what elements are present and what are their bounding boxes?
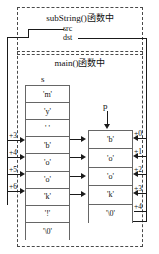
p-pointer-arrowhead [104, 124, 110, 129]
main-frame-title: main()函数中 [17, 56, 143, 69]
array-s-cell: 'o' [26, 154, 69, 171]
copy-arrow-3 [81, 173, 86, 179]
copy-arrow-4 [81, 191, 86, 197]
src-pointer-label: src [63, 24, 72, 33]
array-p: 'b' 'o' 'o' 'k' '\0' [88, 130, 133, 223]
array-p-cell: 'o' [89, 168, 132, 186]
dst-offset-line-1 [138, 156, 147, 157]
src-left-turn-line [7, 37, 29, 38]
offset-dst-plus4: +4 [134, 202, 142, 211]
offset-src-plus4: +4 [9, 148, 17, 157]
p-pointer-stem [107, 111, 108, 125]
array-s-cell: '\0' [26, 223, 69, 240]
dst-offset-line-2 [138, 174, 147, 175]
src-offset-arrow-3 [20, 137, 25, 143]
copy-arrow-2 [81, 154, 86, 160]
array-p-cell: '\0' [89, 205, 132, 223]
array-p-cell: 'b' [89, 131, 132, 149]
dst-vertical-line [146, 38, 147, 222]
substring-frame-title: subString()函数中 [17, 11, 143, 24]
array-s-cell: 'm' [26, 86, 69, 103]
offset-src-plus6: +6 [9, 182, 17, 191]
array-s-label: s [41, 74, 45, 84]
array-p-cell: 'k' [89, 186, 132, 204]
array-s: 'm' 'y' ' ' 'b' 'o' 'o' 'k' '!' '\0' [25, 85, 70, 240]
array-s-cell: 'k' [26, 189, 69, 206]
src-vertical-line [7, 37, 8, 205]
dst-offset-arrow-1 [133, 153, 138, 159]
offset-src-plus3: +3 [9, 131, 17, 140]
dst-offset-line-3 [138, 193, 147, 194]
dst-bottom-turn-line [133, 221, 147, 222]
copy-arrow-1 [81, 136, 86, 142]
array-s-cell: 'o' [26, 172, 69, 189]
dst-offset-arrow-3 [133, 190, 138, 196]
src-offset-arrow-4 [20, 154, 25, 160]
diagram-canvas: subString()函数中 main()函数中 src dst s 'm' '… [0, 0, 159, 254]
array-p-label: p [103, 101, 108, 111]
src-offset-arrow-6 [20, 188, 25, 194]
src-horizontal-line [28, 29, 64, 30]
array-p-cell: 'o' [89, 149, 132, 167]
dst-offset-line-0 [138, 138, 147, 139]
dst-offset-arrow-0 [133, 135, 138, 141]
dst-horizontal-line [78, 38, 146, 39]
dst-pointer-label: dst [63, 33, 72, 42]
array-s-cell: 'b' [26, 137, 69, 154]
array-s-cell: ' ' [26, 120, 69, 137]
src-offset-arrow-5 [20, 171, 25, 177]
offset-src-plus5: +5 [9, 165, 17, 174]
array-s-cell: '!' [26, 206, 69, 223]
dst-offset-arrow-2 [133, 171, 138, 177]
dst-offset-line-4 [134, 211, 147, 212]
array-s-cell: 'y' [26, 103, 69, 120]
